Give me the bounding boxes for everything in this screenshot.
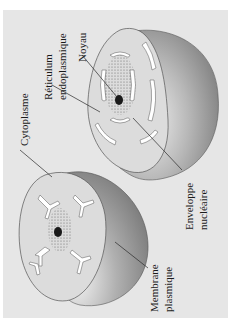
label-reticulum-1: Réticulum — [42, 54, 54, 100]
upper-nucleus — [104, 55, 136, 115]
label-membrane-1: Membrane — [148, 264, 160, 312]
leader-cytoplasme — [20, 150, 52, 177]
label-enveloppe-1: Enveloppe — [183, 183, 195, 230]
label-enveloppe-2: nucléaire — [197, 190, 209, 230]
cell-diagram — [0, 0, 236, 326]
lower-cell — [19, 172, 148, 306]
label-membrane-2: plasmique — [162, 267, 174, 312]
label-noyau: Noyau — [76, 33, 88, 62]
upper-cell — [88, 28, 219, 180]
lower-nucleolus — [54, 227, 62, 237]
label-reticulum-2: endoplasmique — [56, 33, 68, 100]
label-cytoplasme: Cytoplasme — [18, 93, 30, 146]
